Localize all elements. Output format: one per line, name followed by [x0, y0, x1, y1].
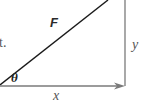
vector-triangle-graphic: [0, 0, 142, 105]
label-theta: θ: [11, 71, 18, 84]
label-F: F: [50, 16, 58, 29]
text-fragment: t.: [0, 36, 6, 50]
vector-diagram: t. F y θ x: [0, 0, 142, 105]
label-x: x: [53, 89, 59, 103]
label-y: y: [132, 38, 138, 52]
